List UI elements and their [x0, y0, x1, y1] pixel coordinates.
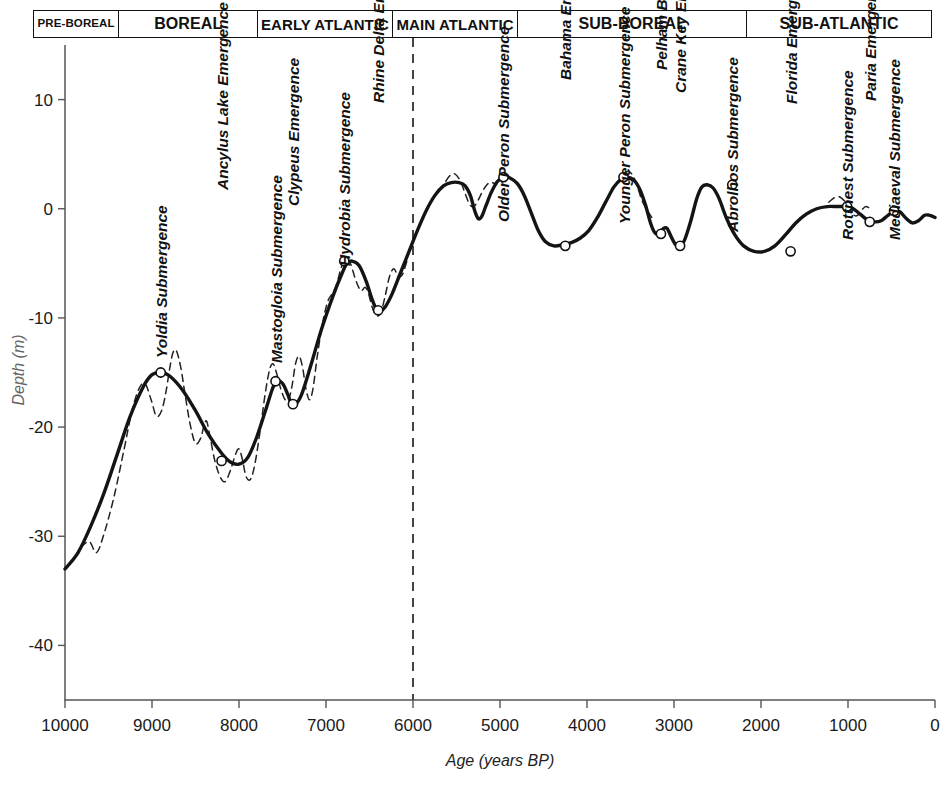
- x-tick-label: 5000: [481, 716, 519, 735]
- x-tick-label: 1000: [829, 716, 867, 735]
- y-tick-label: -40: [28, 636, 53, 655]
- event-marker: [288, 400, 297, 409]
- x-tick-label: 0: [930, 716, 939, 735]
- event-label: Older Peron Submergence: [495, 26, 512, 222]
- event-labels: Yoldia SubmergenceAncylus Lake Emergence…: [153, 0, 903, 363]
- event-marker: [561, 241, 570, 250]
- y-axis-title: Depth (m): [10, 334, 27, 405]
- event-marker: [786, 247, 795, 256]
- event-label: Bahama Emergence: [557, 0, 574, 80]
- x-tick-label: 4000: [568, 716, 606, 735]
- x-tick-label: 10000: [41, 716, 88, 735]
- event-marker: [656, 229, 665, 238]
- event-label: Paria Emergence: [862, 0, 879, 101]
- x-tick-label: 2000: [742, 716, 780, 735]
- event-label: Crane Key Emergence: [672, 0, 689, 93]
- event-label: Mastogloia Submergence: [268, 175, 285, 363]
- event-label: Rhine Delta Emergence: [370, 0, 387, 103]
- event-label: Ancylus Lake Emergence: [214, 2, 231, 191]
- sea-level-chart: Yoldia SubmergenceAncylus Lake Emergence…: [0, 0, 952, 788]
- y-tick-label: -10: [28, 309, 53, 328]
- event-marker: [217, 456, 226, 465]
- curve-detailed-dashed: [81, 172, 869, 553]
- y-tick-label: -20: [28, 418, 53, 437]
- event-label: Clypeus Emergence: [285, 57, 302, 206]
- event-label: Florida Emergence: [783, 0, 800, 104]
- x-axis-title: Age (years BP): [445, 752, 554, 769]
- event-marker: [865, 217, 874, 226]
- sea-level-curve-path: [65, 177, 935, 569]
- x-tick-label: 9000: [133, 716, 171, 735]
- event-label: Abrolhos Submergence: [724, 57, 741, 233]
- event-marker: [156, 368, 165, 377]
- event-marker: [271, 377, 280, 386]
- event-marker: [675, 241, 684, 250]
- event-label: Mediaeval Submergence: [886, 59, 903, 240]
- axis-titles: Depth (m)Age (years BP): [10, 334, 554, 769]
- y-tick-label: -30: [28, 527, 53, 546]
- sea-level-curve-detail-path: [81, 258, 408, 553]
- y-tick-label: 10: [34, 91, 53, 110]
- x-tick-label: 7000: [307, 716, 345, 735]
- axis-tick-labels: 100-10-20-30-401000090008000700060005000…: [28, 91, 939, 735]
- event-label: Pelham Bay Emergence: [653, 0, 670, 70]
- figure-root: PRE-BOREALBOREALEARLY ATLANTICMAIN ATLAN…: [0, 0, 952, 788]
- y-tick-label: 0: [44, 200, 53, 219]
- event-marker: [374, 306, 383, 315]
- event-label: Yoldia Submergence: [153, 205, 170, 358]
- event-label: Younger Peron Submergence: [616, 6, 633, 224]
- x-tick-label: 8000: [220, 716, 258, 735]
- curve-sea-level-main: [65, 177, 935, 569]
- event-label: Rottnest Submergence: [839, 70, 856, 240]
- event-label: Hydrobia Submergence: [336, 92, 353, 266]
- x-tick-label: 6000: [394, 716, 432, 735]
- x-tick-label: 3000: [655, 716, 693, 735]
